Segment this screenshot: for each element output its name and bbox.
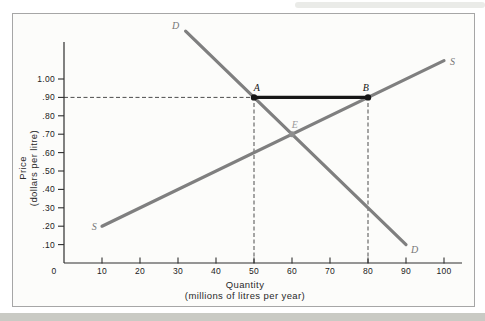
x-tick-label: 40 [211, 266, 221, 276]
scanned-chart-page: .10.20.30.40.50.60.70.80.901.00102030405… [0, 0, 485, 321]
supply-label-top: S [450, 56, 455, 67]
x-tick-label: 70 [325, 266, 335, 276]
y-tick-label: .40 [42, 184, 55, 194]
point-label-B: B [363, 82, 369, 93]
y-tick-label: .70 [42, 129, 55, 139]
point-label-E: E [291, 119, 298, 130]
x-tick-label: 50 [249, 266, 259, 276]
y-tick-label: .10 [42, 240, 55, 250]
y-tick-label: .80 [42, 111, 55, 121]
demand-label-top: D [171, 20, 180, 31]
point-B [365, 94, 371, 100]
point-label-A: A [253, 82, 261, 93]
x-tick-label: 60 [287, 266, 297, 276]
supply-label-bottom: S [92, 221, 97, 232]
x-axis-title: Quantity (millions of litres per year) [40, 279, 450, 301]
page-edge-strip [0, 313, 485, 321]
x-axis-title-line2: (millions of litres per year) [40, 290, 450, 301]
y-axis-title-line1: Price [17, 103, 28, 233]
x-axis-title-line1: Quantity [40, 279, 450, 290]
x-tick-label: 20 [135, 266, 145, 276]
x-tick-label: 100 [436, 266, 451, 276]
y-axis-title-line2: (dollars per litre) [28, 103, 39, 233]
y-tick-label: .60 [42, 148, 55, 158]
y-tick-label: 1.00 [37, 74, 55, 84]
supply-curve [102, 61, 444, 227]
y-axis-title: Price (dollars per litre) [17, 103, 39, 233]
demand-label-bottom: D [410, 244, 419, 255]
demand-curve [186, 31, 406, 244]
point-E [289, 131, 295, 137]
chart-canvas: .10.20.30.40.50.60.70.80.901.00102030405… [0, 0, 485, 321]
y-tick-label: .30 [42, 203, 55, 213]
y-tick-label: .90 [42, 92, 55, 102]
point-A [251, 94, 257, 100]
x-tick-label: 10 [97, 266, 107, 276]
x-tick-label: 90 [401, 266, 411, 276]
y-tick-label: .50 [42, 166, 55, 176]
x-tick-label: 30 [173, 266, 183, 276]
x-tick-label: 80 [363, 266, 373, 276]
y-tick-label: .20 [42, 221, 55, 231]
origin-label: 0 [51, 266, 56, 276]
